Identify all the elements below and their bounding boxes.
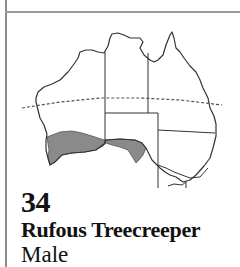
tropic-line	[22, 98, 222, 108]
species-number: 34	[21, 187, 50, 217]
range-shading	[47, 131, 146, 165]
distribution-map-icon	[0, 0, 240, 190]
species-sex: Male	[21, 242, 68, 267]
australia-outline	[36, 32, 216, 182]
species-name: Rufous Treecreeper	[21, 218, 200, 242]
tasmania-outline	[168, 182, 186, 188]
